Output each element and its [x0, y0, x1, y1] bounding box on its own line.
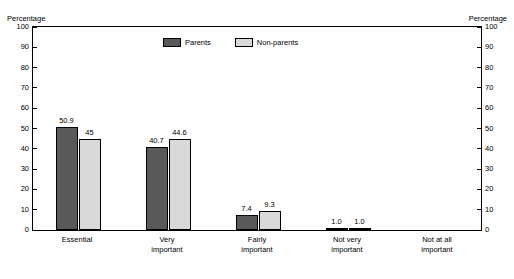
- y-tick-label-left: 0: [13, 225, 29, 234]
- category-label: Not very: [302, 235, 392, 245]
- y-tick-label-left: 30: [13, 164, 29, 173]
- category-label: Not at all: [392, 235, 482, 245]
- y-tick-label-right: 10: [485, 205, 501, 214]
- bar-value-label: 1.0: [343, 217, 377, 226]
- y-tick-label-right: 30: [485, 164, 501, 173]
- y-tick-label-left: 70: [13, 83, 29, 92]
- y-tick-label-left: 40: [13, 144, 29, 153]
- y-tick-label-left: 90: [13, 42, 29, 51]
- bar: [146, 147, 168, 230]
- y-tick-label-right: 20: [485, 184, 501, 193]
- bars-layer: 50.94540.744.67.49.31.01.0: [33, 27, 481, 230]
- y-tick-label-left: 20: [13, 184, 29, 193]
- bar: [169, 139, 191, 230]
- y-tick-label-right: 40: [485, 144, 501, 153]
- plot-area: 0010102020303040405050606070708080909010…: [32, 26, 482, 231]
- y-tick-label-left: 80: [13, 63, 29, 72]
- y-tick-label-right: 80: [485, 63, 501, 72]
- bar: [56, 127, 78, 230]
- y-tick-label-left: 60: [13, 103, 29, 112]
- y-tick-label-right: 70: [485, 83, 501, 92]
- bar-value-label: 45: [73, 128, 107, 137]
- bar: [236, 215, 258, 230]
- category-label: important: [392, 245, 482, 255]
- category-label: important: [302, 245, 392, 255]
- y-tick-label-right: 50: [485, 124, 501, 133]
- y-tick-label-left: 100: [13, 22, 29, 31]
- y-tick-label-left: 10: [13, 205, 29, 214]
- category-label: Fairly: [212, 235, 302, 245]
- bar-value-label: 44.6: [163, 128, 197, 137]
- bar: [259, 211, 281, 230]
- bar: [326, 228, 348, 230]
- bar-value-label: 9.3: [253, 200, 287, 209]
- bar-value-label: 50.9: [50, 116, 84, 125]
- category-label: important: [212, 245, 302, 255]
- y-tick-label-right: 90: [485, 42, 501, 51]
- y-tick-label-right: 100: [485, 22, 501, 31]
- bar: [349, 228, 371, 230]
- y-tick-label-right: 60: [485, 103, 501, 112]
- y-tick-label-right: 0: [485, 225, 501, 234]
- category-label: Very: [122, 235, 212, 245]
- category-label: Essential: [32, 235, 122, 245]
- y-tick-label-left: 50: [13, 124, 29, 133]
- chart-container: Percentage Percentage 001010202030304040…: [0, 0, 514, 279]
- bar: [79, 139, 101, 230]
- category-label: important: [122, 245, 212, 255]
